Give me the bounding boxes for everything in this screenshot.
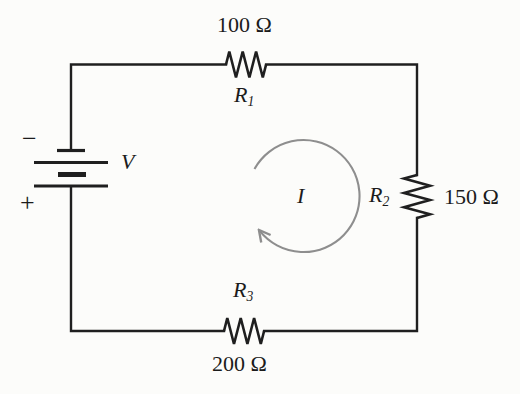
battery-voltage-label: V	[121, 149, 134, 174]
resistor-r2-value-label: 150 Ω	[444, 184, 499, 209]
resistor-r3-name-label: R3	[233, 277, 253, 302]
battery-positive-sign: +	[20, 188, 35, 218]
resistor-r3-value-label: 200 Ω	[212, 351, 267, 376]
resistor-r3-zigzag-icon	[224, 318, 264, 344]
resistor-r2-name-label: R2	[369, 182, 389, 207]
resistor-r1-zigzag-icon	[226, 52, 266, 78]
battery-negative-sign: −	[22, 124, 37, 154]
resistor-r1-name-label: R1	[234, 82, 254, 107]
circuit-diagram: 100 Ω R1 R2 150 Ω R3 200 Ω V − + I	[0, 0, 520, 394]
resistor-r2-zigzag-icon	[404, 175, 430, 218]
resistor-r1-value-label: 100 Ω	[217, 12, 272, 37]
current-label: I	[297, 183, 304, 208]
battery-icon	[34, 151, 108, 187]
circuit-schematic-canvas	[0, 0, 520, 394]
current-loop-arrow-icon	[255, 140, 360, 252]
